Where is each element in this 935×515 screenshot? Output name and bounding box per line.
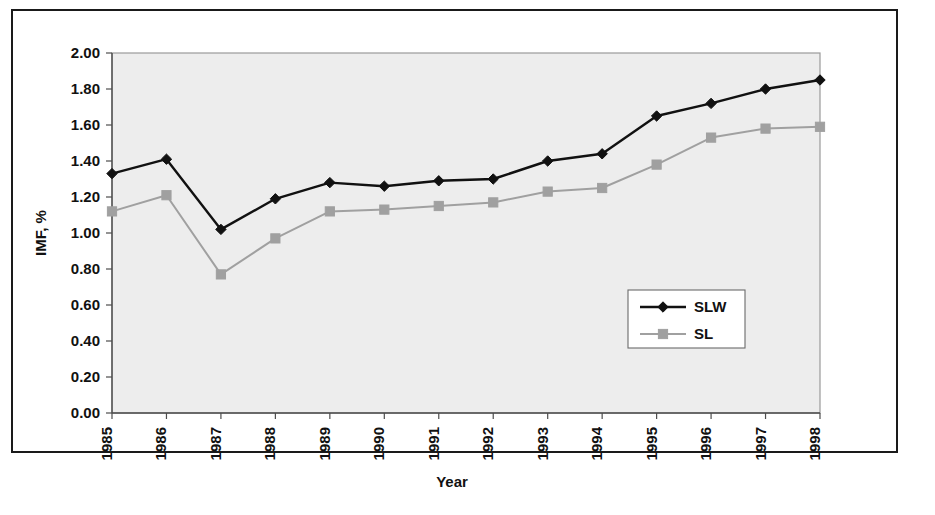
- data-point-marker: [815, 122, 824, 131]
- y-axis-tick-labels: 0.000.200.400.600.801.001.201.401.601.80…: [71, 44, 100, 421]
- y-tick-label: 1.00: [71, 224, 100, 241]
- y-tick-label: 0.40: [71, 332, 100, 349]
- y-tick-label: 0.00: [71, 404, 100, 421]
- x-tick-label: 1994: [588, 426, 605, 460]
- x-axis: 1985198619871988198919901991199219931994…: [98, 413, 823, 490]
- x-tick-label: 1988: [261, 427, 278, 460]
- x-tick-label: 1992: [479, 427, 496, 460]
- x-tick-label: 1998: [806, 427, 823, 460]
- x-tick-label: 1991: [425, 427, 442, 460]
- data-point-marker: [652, 160, 661, 169]
- x-tick-label: 1990: [370, 427, 387, 460]
- x-tick-label: 1989: [316, 427, 333, 460]
- y-axis-title: IMF, %: [32, 210, 49, 256]
- y-tick-label: 1.40: [71, 152, 100, 169]
- x-tick-label: 1987: [207, 427, 224, 460]
- y-tick-label: 0.60: [71, 296, 100, 313]
- data-point-marker: [598, 183, 607, 192]
- data-point-marker: [325, 207, 334, 216]
- y-tick-label: 1.60: [71, 116, 100, 133]
- chart-canvas: 0.000.200.400.600.801.001.201.401.601.80…: [0, 0, 935, 515]
- plot-area: [112, 53, 820, 413]
- x-axis-tick-labels: 1985198619871988198919901991199219931994…: [98, 426, 823, 460]
- x-tick-label: 1993: [534, 427, 551, 460]
- line-chart: 0.000.200.400.600.801.001.201.401.601.80…: [0, 0, 935, 515]
- plot-background: [112, 53, 820, 413]
- x-tick-label: 1985: [98, 427, 115, 460]
- data-point-marker: [761, 124, 770, 133]
- x-tick-label: 1995: [643, 427, 660, 460]
- data-point-marker: [706, 133, 715, 142]
- y-tick-label: 1.20: [71, 188, 100, 205]
- data-point-marker: [216, 270, 225, 279]
- y-axis-ticks: [106, 53, 112, 413]
- y-tick-label: 0.20: [71, 368, 100, 385]
- y-tick-label: 0.80: [71, 260, 100, 277]
- x-axis-title: Year: [436, 473, 468, 490]
- y-axis: 0.000.200.400.600.801.001.201.401.601.80…: [32, 44, 112, 421]
- data-point-marker: [380, 205, 389, 214]
- x-tick-label: 1986: [152, 427, 169, 460]
- y-tick-label: 1.80: [71, 80, 100, 97]
- legend-label: SL: [694, 325, 713, 342]
- legend-sample-marker: [658, 329, 667, 338]
- x-tick-label: 1996: [697, 427, 714, 460]
- chart-legend: SLWSL: [628, 290, 745, 348]
- x-axis-ticks: [112, 413, 820, 419]
- legend-label: SLW: [694, 298, 727, 315]
- data-point-marker: [107, 207, 116, 216]
- data-point-marker: [489, 198, 498, 207]
- data-point-marker: [434, 201, 443, 210]
- x-tick-label: 1997: [752, 427, 769, 460]
- legend-box: [628, 290, 745, 348]
- data-point-marker: [271, 234, 280, 243]
- y-tick-label: 2.00: [71, 44, 100, 61]
- data-point-marker: [543, 187, 552, 196]
- data-point-marker: [162, 191, 171, 200]
